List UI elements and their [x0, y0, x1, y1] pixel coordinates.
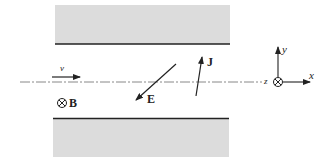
upper-plate	[55, 5, 230, 44]
lower-plate	[53, 119, 229, 158]
y-axis-label: y	[282, 44, 287, 55]
electric-field-label: E	[147, 93, 155, 105]
current-density-arrow-icon	[196, 57, 202, 96]
magnetic-field-into-page-icon	[58, 99, 67, 108]
z-axis-label: z	[264, 77, 268, 86]
diagram-canvas	[0, 0, 329, 166]
velocity-label: v	[60, 64, 64, 73]
x-axis-label: x	[309, 70, 314, 81]
coordinate-axes-icon	[274, 47, 311, 87]
magnetic-field-label: B	[69, 97, 77, 109]
current-density-label: J	[207, 56, 213, 68]
